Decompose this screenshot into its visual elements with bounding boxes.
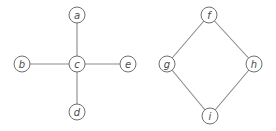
node-label-d: d bbox=[74, 107, 81, 118]
node-e: e bbox=[120, 56, 136, 72]
node-label-b: b bbox=[19, 59, 25, 70]
node-i: i bbox=[202, 108, 218, 124]
node-a: a bbox=[69, 7, 85, 23]
node-label-e: e bbox=[125, 59, 131, 70]
node-label-g: g bbox=[164, 59, 170, 70]
node-g: g bbox=[159, 56, 175, 72]
edge-f-h bbox=[209, 15, 254, 64]
node-label-h: h bbox=[251, 59, 257, 70]
node-label-i: i bbox=[209, 111, 212, 122]
node-h: h bbox=[246, 56, 262, 72]
cycle-graph-edges bbox=[167, 15, 254, 116]
node-f: f bbox=[201, 7, 217, 23]
node-label-c: c bbox=[74, 59, 80, 70]
edge-h-i bbox=[210, 64, 254, 116]
graph-diagram: a b c e d f g h i bbox=[0, 0, 276, 131]
node-d: d bbox=[69, 104, 85, 120]
node-b: b bbox=[14, 56, 30, 72]
edge-f-g bbox=[167, 15, 209, 64]
edge-g-i bbox=[167, 64, 210, 116]
node-label-a: a bbox=[74, 10, 80, 21]
node-c: c bbox=[69, 56, 85, 72]
